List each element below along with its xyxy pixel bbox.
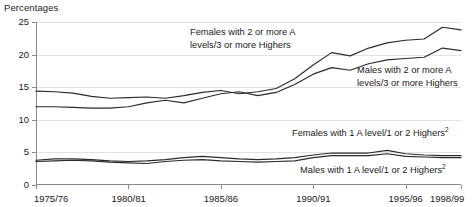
y-axis-tick-label: 15: [3, 81, 29, 92]
y-axis-tick-mark: [32, 152, 36, 153]
x-axis-tick-label: 1998/99: [430, 193, 464, 204]
y-axis-tick-mark: [32, 55, 36, 56]
y-axis-tick-mark: [32, 87, 36, 88]
x-axis-tick-label: 1975/76: [34, 193, 68, 204]
x-axis-tick-mark: [221, 185, 222, 189]
annotation-males-one-a-footnote: 2: [442, 163, 446, 170]
x-axis-tick-mark: [313, 185, 314, 189]
annotation-males-two-plus: Males with 2 or more A levels/3 or more …: [357, 64, 458, 89]
annotation-females-one-a: Females with 1 A level/1 or 2 Highers2: [292, 127, 449, 140]
annotation-females-one-a-label: Females with 1 A level/1 or 2 Highers: [292, 128, 445, 138]
y-axis-tick-label: 0: [3, 179, 29, 190]
y-axis-tick-mark: [32, 120, 36, 121]
y-axis-tick-label: 10: [3, 114, 29, 125]
y-axis-title: Percentages: [4, 2, 58, 13]
x-axis-tick-mark: [128, 185, 129, 189]
annotation-males-one-a-label: Males with 1 A level/1 or 2 Highers: [300, 165, 442, 175]
x-axis-tick-label: 1990/91: [296, 193, 330, 204]
annotation-males-two-plus-line2: levels/3 or more Highers: [357, 77, 458, 90]
annotation-females-two-plus-line1: Females with 2 or more A: [190, 26, 295, 39]
x-axis-tick-mark: [461, 185, 462, 189]
y-axis-tick-label: 20: [3, 49, 29, 60]
y-axis-tick-mark: [32, 22, 36, 23]
x-axis-tick-label: 1985/86: [204, 193, 238, 204]
annotation-females-two-plus: Females with 2 or more A levels/3 or mor…: [190, 26, 295, 51]
annotation-females-one-a-footnote: 2: [445, 126, 449, 133]
x-axis-tick-label: 1995/96: [389, 193, 423, 204]
annotation-males-one-a: Males with 1 A level/1 or 2 Highers2: [300, 164, 446, 177]
series-line: [36, 154, 461, 164]
y-axis-tick-label: 25: [3, 16, 29, 27]
x-axis-tick-mark: [406, 185, 407, 189]
x-axis-tick-mark: [36, 185, 37, 189]
x-axis-tick-label: 1980/81: [111, 193, 145, 204]
annotation-males-two-plus-line1: Males with 2 or more A: [357, 64, 458, 77]
series-line: [36, 150, 461, 161]
line-chart: Percentages 0510152025 1975/761980/81198…: [0, 0, 475, 207]
y-axis-tick-label: 5: [3, 146, 29, 157]
annotation-females-two-plus-line2: levels/3 or more Highers: [190, 39, 295, 52]
